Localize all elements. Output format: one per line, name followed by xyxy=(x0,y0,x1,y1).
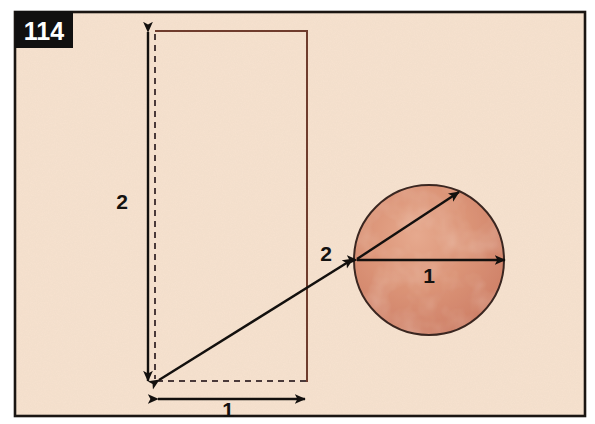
paper-grain xyxy=(16,13,584,415)
label-circle-diameter: 1 xyxy=(423,264,435,287)
plate-number-label: 114 xyxy=(24,17,64,45)
label-circle-radius-leader: 2 xyxy=(320,242,332,265)
label-rect-width: 1 xyxy=(222,398,234,421)
figure-plate-114: 2 1 2 1 114 xyxy=(0,0,595,424)
plate-number-badge: 114 xyxy=(15,11,73,48)
figure-canvas: 2 1 2 1 114 xyxy=(0,0,595,424)
label-rect-height: 2 xyxy=(116,190,128,213)
